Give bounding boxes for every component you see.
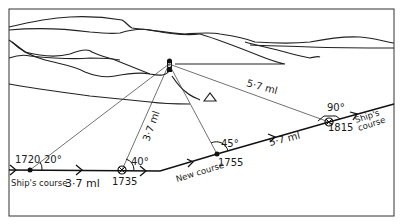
time-label-1735: 1735 (112, 176, 137, 187)
lighthouse-distance-1735: 3·7 ml (141, 109, 162, 142)
course-arrows (10, 112, 357, 176)
angle-label-45: 45° (221, 138, 239, 149)
position-marker-1755 (215, 152, 220, 157)
coastline-hills (9, 17, 394, 104)
first-leg-distance: 3·7 ml (65, 177, 100, 190)
position-marker-1720 (28, 168, 33, 173)
time-label-1815: 1815 (328, 122, 353, 133)
angle-label-40: 40° (131, 156, 149, 167)
angle-label-20: 20° (44, 154, 62, 165)
navigation-diagram: 1720 20° Ship's course 3·7 ml 1735 40° 3… (0, 0, 402, 224)
ships-course-label: Ship's course (11, 178, 67, 188)
ships-course-line (9, 104, 394, 171)
time-label-1755: 1755 (218, 157, 243, 168)
second-leg-distance: 5·7 ml (268, 130, 301, 148)
bearing-lines (30, 64, 329, 170)
time-label-1720: 1720 (15, 154, 40, 165)
angle-label-90: 90° (327, 102, 345, 113)
fix-marker-1735 (118, 166, 126, 174)
beacon-icon (204, 93, 216, 101)
